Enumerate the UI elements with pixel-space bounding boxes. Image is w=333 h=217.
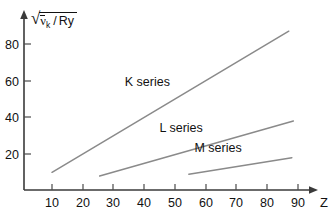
x-axis-arrowhead: [309, 186, 318, 194]
y-ticks-group: 20 40 60 80: [5, 38, 31, 162]
y-tick-label-80: 80: [5, 38, 19, 52]
y-tick-label-20: 20: [5, 148, 19, 162]
series-label-k: K series: [125, 75, 170, 89]
x-tick-label-80: 80: [260, 196, 274, 210]
nu-glyph: ν: [40, 14, 46, 28]
x-tick-label-50: 50: [168, 196, 182, 210]
x-tick-label-20: 20: [76, 196, 90, 210]
x-ticks-group: 10 20 30 40 50 60 70 80 90: [45, 184, 305, 210]
x-tick-label-70: 70: [229, 196, 243, 210]
series-labels-group: K series L series M series: [125, 75, 242, 155]
series-label-l: L series: [159, 121, 202, 135]
y-tick-label-40: 40: [5, 111, 19, 125]
series-line-k: [52, 31, 289, 172]
y-axis-arrowhead: [20, 10, 28, 19]
x-axis-label: Z: [320, 195, 328, 210]
y-tick-label-60: 60: [5, 75, 19, 89]
y-axis-label: √ ν k/Ry: [31, 9, 77, 33]
overbar: [40, 15, 45, 16]
radicand: ν k/Ry: [39, 12, 77, 31]
division-slash: /: [50, 14, 58, 28]
nu-bar: ν: [40, 14, 46, 29]
x-tick-label-90: 90: [291, 196, 305, 210]
x-tick-label-10: 10: [45, 196, 59, 210]
x-tick-label-60: 60: [199, 196, 213, 210]
series-line-m: [189, 158, 292, 175]
series-label-m: M series: [194, 141, 241, 155]
chart-container: 20 40 60 80 10 20 30 40 50 60 70 80 90: [0, 0, 333, 217]
series-lines-group: [52, 31, 293, 176]
rydberg-symbol: Ry: [59, 14, 74, 28]
x-tick-label-40: 40: [137, 196, 151, 210]
x-tick-label-30: 30: [106, 196, 120, 210]
